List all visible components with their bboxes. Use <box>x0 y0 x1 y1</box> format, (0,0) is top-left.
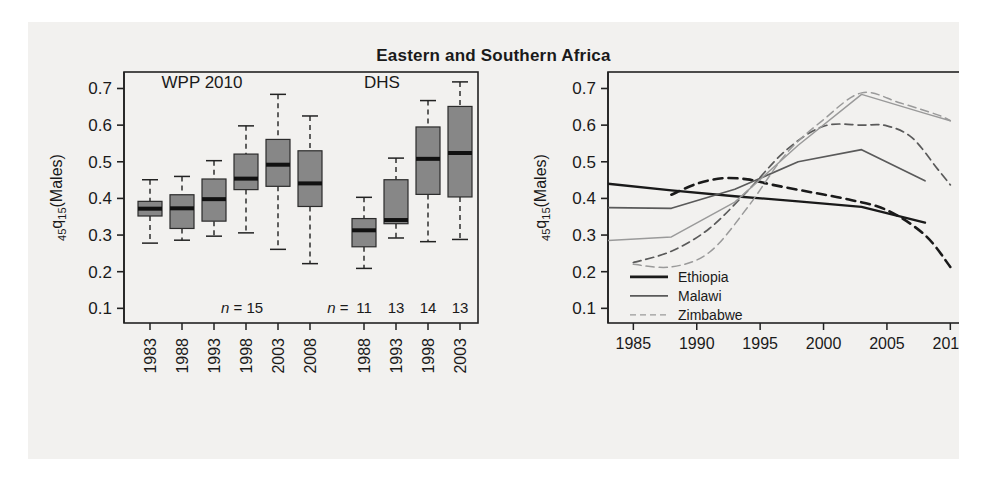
boxplot-svg: 0.10.20.30.40.50.60.745q15(Males)WPP 201… <box>28 68 488 458</box>
group-label-dhs: DHS <box>364 73 400 92</box>
legend-label: Ethiopia <box>678 269 729 285</box>
left-x-tick-label: 1993 <box>206 338 223 374</box>
box-rect <box>352 219 376 247</box>
right-y-tick-label: 0.5 <box>572 153 596 172</box>
left-y-axis: 0.10.20.30.40.50.60.7 <box>88 72 124 323</box>
left-x-tick-label: 2008 <box>302 338 319 374</box>
svg-text:2008: 2008 <box>302 338 319 374</box>
svg-text:45q15(Males): 45q15(Males) <box>532 154 552 241</box>
left-x-tick-label: 1993 <box>388 338 405 374</box>
svg-text:1993: 1993 <box>206 338 223 374</box>
right-y-tick-label: 0.1 <box>572 299 596 318</box>
legend-label: Zimbabwe <box>678 307 743 323</box>
n-labels: n = 15n =11131413 <box>221 299 468 316</box>
right-y-tick-label: 0.4 <box>572 189 596 208</box>
box-rect <box>170 195 194 229</box>
figure-title: Eastern and Southern Africa <box>28 46 959 66</box>
svg-text:1983: 1983 <box>142 338 159 374</box>
right-x-tick-label: 2000 <box>806 335 842 352</box>
legend-item: Malawi <box>630 288 722 304</box>
left-x-tick-label: 1998 <box>238 338 255 374</box>
svg-text:1988: 1988 <box>174 338 191 374</box>
n-value: 11 <box>356 299 372 316</box>
box-rect <box>298 151 322 207</box>
right-y-tick-label: 0.3 <box>572 226 596 245</box>
left-y-axis-title: 45q15(Males) <box>48 154 68 241</box>
left-panel-boxplot: 0.10.20.30.40.50.60.745q15(Males)WPP 201… <box>28 68 488 458</box>
svg-text:1988: 1988 <box>356 338 373 374</box>
box-rect <box>384 180 408 224</box>
n-value: 13 <box>388 299 405 316</box>
boxplot-box <box>138 180 162 243</box>
line-ethiopia-solid <box>608 184 925 223</box>
left-x-tick-label: 1983 <box>142 338 159 374</box>
right-x-tick-label: 1985 <box>616 335 652 352</box>
left-group-labels: WPP 2010DHS <box>162 73 400 92</box>
left-x-tick-label: 1988 <box>356 338 373 374</box>
left-y-tick-label: 0.3 <box>88 226 112 245</box>
boxplot-box <box>170 176 194 240</box>
line-ethiopia-dashed <box>671 178 950 267</box>
left-y-tick-label: 0.6 <box>88 116 112 135</box>
svg-text:1998: 1998 <box>238 338 255 374</box>
svg-text:1998: 1998 <box>420 338 437 374</box>
svg-text:2003: 2003 <box>452 338 469 374</box>
right-x-axis: 198519901995200020052010 <box>616 323 959 352</box>
legend-item: Ethiopia <box>630 269 729 285</box>
n-value: 13 <box>452 299 469 316</box>
boxplot-box <box>352 197 376 268</box>
right-x-tick-label: 1995 <box>742 335 778 352</box>
boxplot-series <box>138 82 472 269</box>
linechart-svg: 0.10.20.30.40.50.60.745q15(Males)Ethiopi… <box>488 68 959 458</box>
right-x-tick-label: 2010 <box>933 335 959 352</box>
boxplot-box <box>384 158 408 238</box>
left-x-tick-label: 2003 <box>270 338 287 374</box>
right-y-tick-label: 0.6 <box>572 116 596 135</box>
legend: EthiopiaMalawiZimbabwe <box>630 269 743 323</box>
figure-root: Eastern and Southern Africa 0.10.20.30.4… <box>0 0 987 481</box>
svg-text:1993: 1993 <box>388 338 405 374</box>
svg-text:2003: 2003 <box>270 338 287 374</box>
line-zimbabwe-dashed <box>633 92 950 267</box>
n-label-dhs-prefix: n = <box>327 299 349 316</box>
boxplot-box <box>416 101 440 242</box>
legend-label: Malawi <box>678 288 722 304</box>
line-series-group <box>608 92 950 267</box>
boxplot-box <box>202 161 226 236</box>
legend-item: Zimbabwe <box>630 307 743 323</box>
left-x-tick-label: 1998 <box>420 338 437 374</box>
left-x-tick-label: 1988 <box>174 338 191 374</box>
right-x-tick-label: 2005 <box>869 335 905 352</box>
group-label-wpp: WPP 2010 <box>162 73 243 92</box>
right-plot-frame <box>608 72 959 323</box>
n-label-wpp: n = 15 <box>221 299 263 316</box>
boxplot-box <box>234 126 258 233</box>
left-y-tick-label: 0.1 <box>88 299 112 318</box>
left-y-tick-label: 0.4 <box>88 189 112 208</box>
right-y-tick-label: 0.2 <box>572 263 596 282</box>
line-malawi-dashed <box>633 124 950 263</box>
right-panel-linechart: 0.10.20.30.40.50.60.745q15(Males)Ethiopi… <box>488 68 959 458</box>
boxplot-box <box>448 82 472 240</box>
svg-text:45q15(Males): 45q15(Males) <box>48 154 68 241</box>
right-y-axis: 0.10.20.30.40.50.60.7 <box>572 72 608 323</box>
right-x-tick-label: 1990 <box>679 335 715 352</box>
box-rect <box>234 154 258 190</box>
right-y-axis-title: 45q15(Males) <box>532 154 552 241</box>
right-y-tick-label: 0.7 <box>572 79 596 98</box>
figure-canvas: Eastern and Southern Africa 0.10.20.30.4… <box>28 22 959 459</box>
boxplot-box <box>298 116 322 264</box>
n-value: 14 <box>420 299 437 316</box>
left-y-tick-label: 0.5 <box>88 153 112 172</box>
left-x-tick-label: 2003 <box>452 338 469 374</box>
boxplot-box <box>266 94 290 249</box>
left-y-tick-label: 0.2 <box>88 263 112 282</box>
left-y-tick-label: 0.7 <box>88 79 112 98</box>
left-x-axis: 1983198819931998200320081988199319982003 <box>142 323 469 374</box>
